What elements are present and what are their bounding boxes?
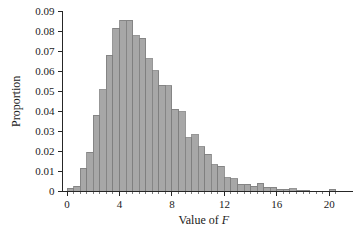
histogram-bar xyxy=(139,38,146,191)
histogram-bar xyxy=(257,183,264,191)
y-tick-label: 0 xyxy=(49,185,55,197)
histogram-bar xyxy=(113,28,120,191)
f-distribution-histogram-figure: 00.010.020.030.040.050.060.070.080.09048… xyxy=(0,0,363,237)
histogram-bar xyxy=(198,147,205,192)
x-tick-label: 8 xyxy=(169,198,175,210)
histogram-bar xyxy=(224,178,231,192)
y-axis-title: Proportion xyxy=(9,76,23,127)
x-tick-label: 0 xyxy=(64,198,70,210)
y-tick-label: 0.08 xyxy=(35,25,55,37)
histogram-bar xyxy=(126,20,133,191)
histogram-bar xyxy=(264,187,271,191)
x-tick-label: 16 xyxy=(271,198,283,210)
histogram-bar xyxy=(172,109,179,191)
histogram-bar xyxy=(106,55,113,191)
histogram-bar xyxy=(231,179,238,192)
histogram-bar xyxy=(185,138,192,192)
histogram-bar xyxy=(192,135,199,192)
y-tick-label: 0.05 xyxy=(35,85,55,97)
x-axis-title-variable: F xyxy=(221,213,230,227)
histogram-bar xyxy=(74,186,81,191)
histogram-bar xyxy=(179,112,186,192)
y-tick-label: 0.03 xyxy=(35,125,55,137)
y-tick-label: 0.02 xyxy=(35,145,54,157)
histogram-bar xyxy=(133,36,140,192)
x-axis-ticks: 048121620 xyxy=(64,192,335,210)
histogram-bar xyxy=(238,184,245,191)
histogram-bar xyxy=(80,168,87,191)
y-tick-label: 0.07 xyxy=(35,45,55,57)
y-tick-label: 0.06 xyxy=(35,65,55,77)
y-tick-label: 0.04 xyxy=(35,105,55,117)
histogram-bar xyxy=(211,165,218,192)
histogram-bars xyxy=(67,20,336,191)
histogram-bar xyxy=(120,20,127,191)
histogram-bar xyxy=(146,59,153,192)
histogram-bar xyxy=(165,86,172,192)
x-axis-title: Value of F xyxy=(178,213,229,227)
histogram-bar xyxy=(152,71,159,192)
histogram-bar xyxy=(244,184,251,191)
histogram-bar xyxy=(270,187,277,191)
histogram-plot: 00.010.020.030.040.050.060.070.080.09048… xyxy=(0,0,363,237)
histogram-bar xyxy=(205,154,212,191)
y-axis-ticks: 00.010.020.030.040.050.060.070.080.09 xyxy=(35,5,62,198)
x-tick-label: 12 xyxy=(219,198,230,210)
histogram-bar xyxy=(251,186,258,191)
histogram-bar xyxy=(93,115,100,191)
histogram-bar xyxy=(218,166,225,191)
x-tick-label: 20 xyxy=(324,198,336,210)
histogram-bar xyxy=(159,85,166,191)
histogram-bar xyxy=(100,90,107,192)
histogram-bar xyxy=(87,152,94,191)
x-axis-title-prefix: Value of xyxy=(178,213,221,227)
y-tick-label: 0.01 xyxy=(35,165,54,177)
y-tick-label: 0.09 xyxy=(35,5,55,17)
x-tick-label: 4 xyxy=(117,198,123,210)
